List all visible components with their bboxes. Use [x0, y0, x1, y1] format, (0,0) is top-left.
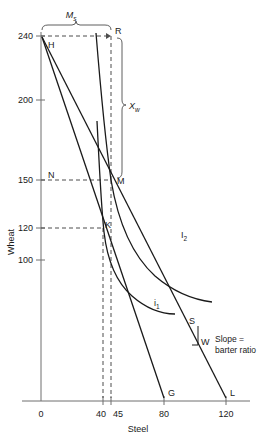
point-label-M: M: [117, 176, 125, 186]
curve-label-i1: i1: [154, 298, 160, 310]
point-label-N: N: [48, 170, 55, 180]
brace-label-Xw: Xw: [128, 101, 141, 113]
arrowhead-R: [106, 33, 111, 39]
y-axis-title: Wheat: [6, 228, 16, 255]
point-label-W: W: [201, 337, 210, 347]
x-tick-label-120: 120: [218, 409, 233, 419]
brace-Ms-path: [42, 21, 111, 30]
y-tick-label-150: 150: [18, 175, 33, 185]
brace-Ms: [42, 21, 111, 30]
slope-annotation-line2: barter ratio: [215, 345, 256, 355]
y-tick-label-200: 200: [18, 95, 33, 105]
x-axis-title: Steel: [128, 424, 149, 434]
x-tick-label-40: 40: [96, 409, 106, 419]
point-label-H: H: [48, 40, 55, 50]
y-tick-label-100: 100: [18, 255, 33, 265]
y-tick-label-120: 120: [18, 223, 33, 233]
point-label-K: K: [105, 220, 111, 230]
x-tick-label-0: 0: [38, 409, 43, 419]
brace-label-Ms: Ms: [66, 10, 78, 22]
x-tick-label-45: 45: [113, 409, 123, 419]
y-tick-label-240: 240: [18, 31, 33, 41]
indifference-curve-i1: [97, 121, 175, 314]
slope-annotation-line1: Slope =: [215, 334, 244, 344]
curve-label-I2: I2: [181, 230, 188, 242]
trade-diagram-figure: 240 200 150 120 100 0 40 45 80 120 Steel…: [0, 0, 269, 443]
brace-Xw: [117, 38, 126, 178]
point-label-L: L: [230, 388, 235, 398]
point-label-R: R: [115, 26, 122, 36]
point-label-S: S: [189, 316, 195, 326]
x-tick-label-80: 80: [159, 409, 169, 419]
x-axis-ticks: 0 40 45 80 120: [38, 396, 233, 419]
brace-Xw-path: [117, 38, 126, 178]
chart-canvas: 240 200 150 120 100 0 40 45 80 120 Steel…: [0, 0, 269, 443]
indifference-curve-I2: [96, 33, 212, 302]
point-label-G: G: [168, 388, 175, 398]
